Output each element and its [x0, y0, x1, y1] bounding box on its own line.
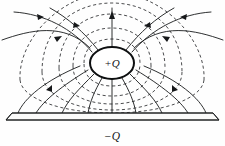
diagram-canvas: +Q −Q: [0, 0, 225, 146]
field-line: [134, 31, 223, 49]
arrowhead-icon: [37, 14, 44, 20]
field-line: [88, 78, 102, 113]
charge-label: +Q: [104, 57, 119, 69]
positive-charge: +Q: [90, 47, 134, 79]
plate-body: [6, 113, 219, 120]
field-line: [122, 78, 136, 113]
arrowhead-icon: [54, 36, 62, 42]
field-line: [2, 31, 90, 49]
arrowhead-icon: [162, 36, 170, 42]
arrowhead-icon: [109, 11, 115, 19]
field-line: [36, 70, 88, 113]
plate-label: −Q: [104, 130, 121, 142]
physics-field-diagram: +Q −Q: [0, 0, 225, 146]
field-line: [136, 70, 188, 113]
arrowhead-icon: [172, 85, 178, 92]
arrowhead-icon: [46, 85, 52, 92]
grounded-plate: [6, 113, 219, 120]
field-line: [132, 12, 211, 52]
arrowhead-icon: [180, 14, 187, 20]
